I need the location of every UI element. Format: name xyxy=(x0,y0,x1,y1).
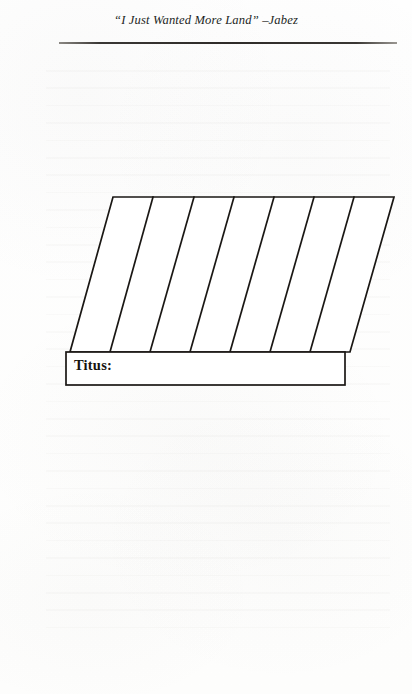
strip-divider-1 xyxy=(110,197,153,352)
running-head: “I Just Wanted More Land” –Jabez xyxy=(0,13,412,28)
page-bleedthrough-texture xyxy=(46,70,390,642)
parallelogram-outline xyxy=(70,197,394,352)
strip-divider-6 xyxy=(310,197,354,352)
strip-divider-4 xyxy=(230,197,274,352)
page-background xyxy=(0,0,412,694)
land-strip-diagram-svg xyxy=(0,0,412,694)
strip-divider-3 xyxy=(190,197,234,352)
header-rule xyxy=(59,42,397,44)
titus-label-text: Titus: xyxy=(74,357,112,374)
land-strip-diagram xyxy=(0,0,412,694)
strip-divider-2 xyxy=(150,197,194,352)
strip-divider-5 xyxy=(270,197,314,352)
